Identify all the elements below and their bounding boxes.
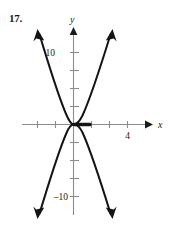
upward-parabola-right-arrow-icon: [106, 29, 117, 42]
y-tick-label-neg10: –10: [53, 192, 69, 202]
coordinate-plot: x y 10 –10 4: [0, 0, 174, 228]
x-axis-arrow-icon: [145, 121, 153, 129]
y-axis-label: y: [69, 14, 75, 25]
upward-parabola-left-arrow-icon: [33, 29, 44, 42]
curve-downward-parabola: [40, 125, 111, 214]
y-tick-label-10: 10: [46, 48, 56, 58]
x-tick-label-4: 4: [125, 131, 130, 141]
figure-container: 17.: [0, 0, 174, 228]
axes-group: [22, 27, 153, 215]
downward-parabola-left-arrow-icon: [33, 207, 44, 220]
y-axis-arrow-icon: [70, 27, 78, 35]
x-axis-label: x: [157, 119, 163, 130]
downward-parabola-right-arrow-icon: [106, 207, 117, 220]
